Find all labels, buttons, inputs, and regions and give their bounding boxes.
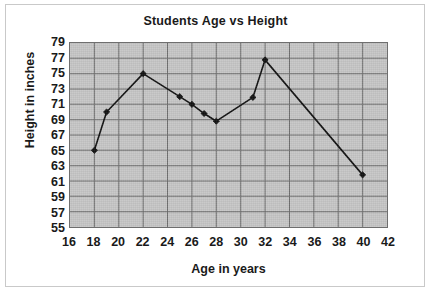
y-tick-label: 71 bbox=[35, 98, 65, 111]
y-tick-label: 79 bbox=[35, 36, 65, 49]
y-tick-label: 57 bbox=[35, 206, 65, 219]
y-tick-label: 69 bbox=[35, 113, 65, 126]
y-tick-label: 75 bbox=[35, 67, 65, 80]
y-tick-label: 65 bbox=[35, 144, 65, 157]
plot-area bbox=[69, 42, 388, 228]
x-axis-tick-labels: 1618202224262830323436384042 bbox=[69, 236, 388, 252]
x-axis-label: Age in years bbox=[69, 262, 388, 276]
x-tick-label: 42 bbox=[373, 236, 403, 249]
y-tick-label: 77 bbox=[35, 51, 65, 64]
y-tick-label: 73 bbox=[35, 82, 65, 95]
data-series-students bbox=[70, 43, 387, 227]
chart-title: Students Age vs Height bbox=[0, 14, 431, 28]
y-axis-tick-labels: 55575961636567697173757779 bbox=[31, 42, 65, 228]
y-tick-label: 59 bbox=[35, 191, 65, 204]
y-tick-label: 63 bbox=[35, 160, 65, 173]
y-tick-label: 67 bbox=[35, 129, 65, 142]
y-tick-label: 61 bbox=[35, 175, 65, 188]
y-tick-label: 55 bbox=[35, 222, 65, 235]
chart-figure: Students Age vs Height Height in inches … bbox=[0, 0, 431, 294]
